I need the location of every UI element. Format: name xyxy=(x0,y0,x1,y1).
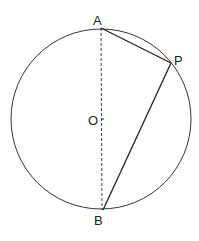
label-B: B xyxy=(94,213,103,228)
label-O: O xyxy=(88,113,98,128)
chord-PB xyxy=(103,63,171,210)
chord-AP xyxy=(101,28,171,63)
circle-diagram: A P O B xyxy=(0,0,199,241)
label-P: P xyxy=(174,53,183,68)
label-A: A xyxy=(93,13,102,28)
